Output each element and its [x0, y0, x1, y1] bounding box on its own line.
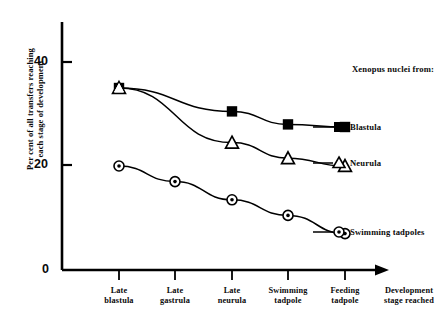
legend-label-neurula: Neurula [350, 158, 381, 168]
data-point-2-1-dot [173, 180, 177, 184]
x-axis-arrowhead [375, 265, 389, 276]
y-tick-label-20: 20 [34, 157, 48, 171]
y-tick-label-40: 40 [34, 54, 48, 68]
x-axis-title-line2: stage reached [369, 296, 441, 306]
data-point-0-1 [227, 106, 237, 116]
legend-marker-circle-dot-inner [337, 230, 341, 234]
series-blastula [114, 83, 350, 132]
data-point-0-2 [283, 119, 293, 129]
legend-label-swimming-tadpoles: Swimming tadpoles [350, 227, 424, 237]
legend-markers [313, 122, 345, 237]
legend-label-blastula: Blastula [350, 122, 381, 132]
y-tick-label-0: 0 [42, 262, 49, 276]
data-point-2-2-dot [230, 198, 234, 202]
series-swimming-tadpoles [114, 161, 350, 239]
data-point-2-0-dot [117, 164, 121, 168]
data-series-layer [113, 82, 352, 239]
series-line-1 [119, 88, 345, 166]
data-point-2-3-dot [286, 214, 290, 218]
x-axis-title: Development stage reached [369, 286, 441, 305]
legend-marker-filled-square [334, 122, 344, 132]
chart-figure: 40 20 0 Per cent of all transfers reachi… [0, 0, 441, 317]
x-axis-title-line1: Development [369, 286, 441, 296]
legend-title: Xenopus nuclei from: [352, 64, 434, 74]
